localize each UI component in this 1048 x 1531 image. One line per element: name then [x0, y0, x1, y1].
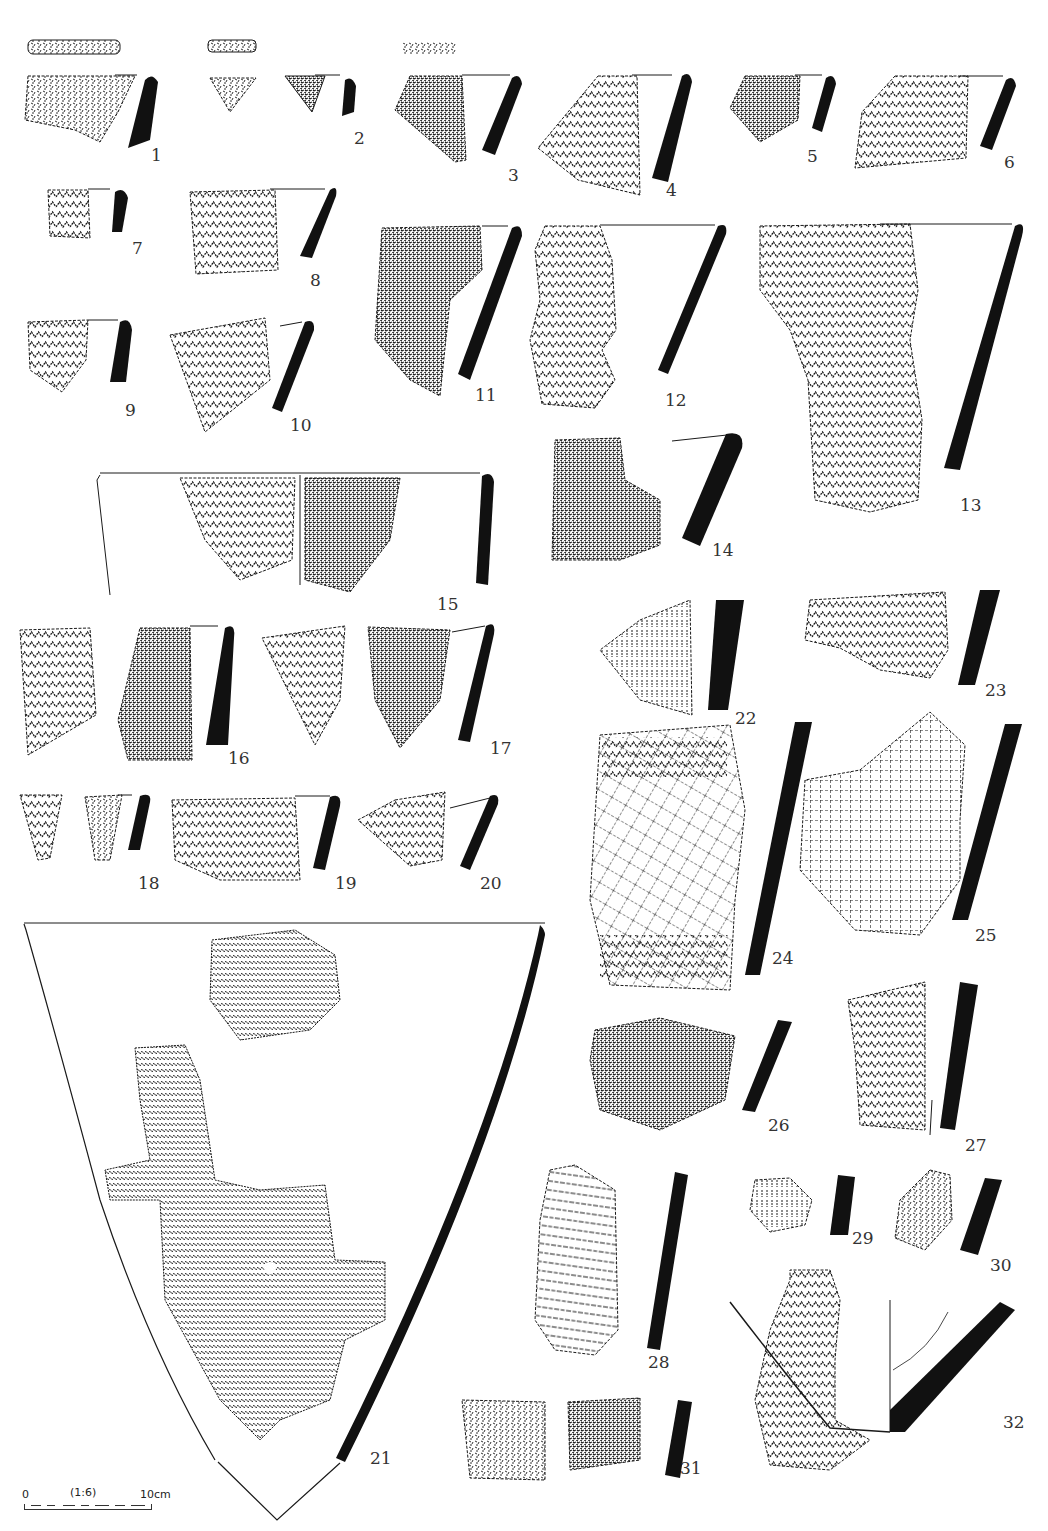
sherd-number-20: 20 [480, 873, 502, 893]
sherd-1 [25, 40, 158, 148]
sherd-23 [805, 590, 1000, 685]
sherd-number-16: 16 [228, 748, 250, 768]
sherd-2 [208, 40, 356, 116]
sherd-11 [375, 226, 522, 396]
sherd-number-2: 2 [354, 128, 365, 148]
sherd-25 [800, 712, 1022, 935]
sherd-number-5: 5 [807, 146, 818, 166]
sherd-number-32: 32 [1003, 1412, 1025, 1432]
sherd-number-8: 8 [310, 270, 321, 290]
sherd-number-7: 7 [132, 238, 143, 258]
sherd-number-13: 13 [960, 495, 982, 515]
sherd-31 [462, 1398, 692, 1480]
sherd-7 [48, 189, 128, 238]
sherd-3 [395, 42, 522, 162]
sherd-plate [0, 0, 1048, 1531]
sherd-12 [530, 225, 726, 408]
sherd-number-17: 17 [490, 738, 512, 758]
sherd-9 [28, 320, 132, 392]
sherd-number-26: 26 [768, 1115, 790, 1135]
sherd-number-23: 23 [985, 680, 1007, 700]
sherd-18 [20, 795, 150, 860]
sherd-5 [730, 75, 836, 142]
sherd-6 [855, 76, 1016, 168]
sherd-number-28: 28 [648, 1352, 670, 1372]
sherd-number-25: 25 [975, 925, 997, 945]
sherd-20 [358, 792, 498, 870]
sherd-number-21: 21 [370, 1448, 392, 1468]
sherd-4 [538, 74, 692, 195]
sherd-number-24: 24 [772, 948, 794, 968]
sherd-number-31: 31 [680, 1458, 702, 1478]
sherd-number-30: 30 [990, 1255, 1012, 1275]
sherd-number-19: 19 [335, 873, 357, 893]
sherd-28 [535, 1165, 688, 1355]
sherd-27 [848, 982, 978, 1135]
sherd-8 [190, 188, 336, 274]
sherd-number-15: 15 [437, 594, 459, 614]
sherd-19 [172, 796, 340, 880]
scale-start-label: 0 [22, 1488, 29, 1501]
sherd-16 [20, 626, 234, 760]
sherd-13 [760, 224, 1023, 512]
sherd-29 [750, 1175, 855, 1235]
sherd-22 [600, 600, 744, 715]
sherd-number-29: 29 [852, 1228, 874, 1248]
sherd-number-6: 6 [1004, 152, 1015, 172]
sherd-32 [730, 1270, 1015, 1470]
sherd-number-4: 4 [666, 180, 677, 200]
sherd-number-10: 10 [290, 415, 312, 435]
sherd-number-1: 1 [151, 145, 162, 165]
sherd-number-12: 12 [665, 390, 687, 410]
sherd-number-22: 22 [735, 708, 757, 728]
sherd-15 [97, 473, 494, 595]
sherd-number-9: 9 [125, 400, 136, 420]
scale-bar-line [24, 1504, 152, 1510]
sherd-number-3: 3 [508, 165, 519, 185]
sherd-number-11: 11 [475, 385, 497, 405]
sherd-number-27: 27 [965, 1135, 987, 1155]
sherd-17 [262, 624, 494, 748]
scale-end-label: 10cm [140, 1488, 171, 1501]
sherd-30 [895, 1170, 1002, 1255]
scale-ratio-label: (1:6) [70, 1486, 96, 1499]
scale-bar: 0 (1:6) 10cm [22, 1488, 202, 1528]
sherd-number-18: 18 [138, 873, 160, 893]
sherd-number-14: 14 [712, 540, 734, 560]
sherd-26 [590, 1018, 792, 1130]
